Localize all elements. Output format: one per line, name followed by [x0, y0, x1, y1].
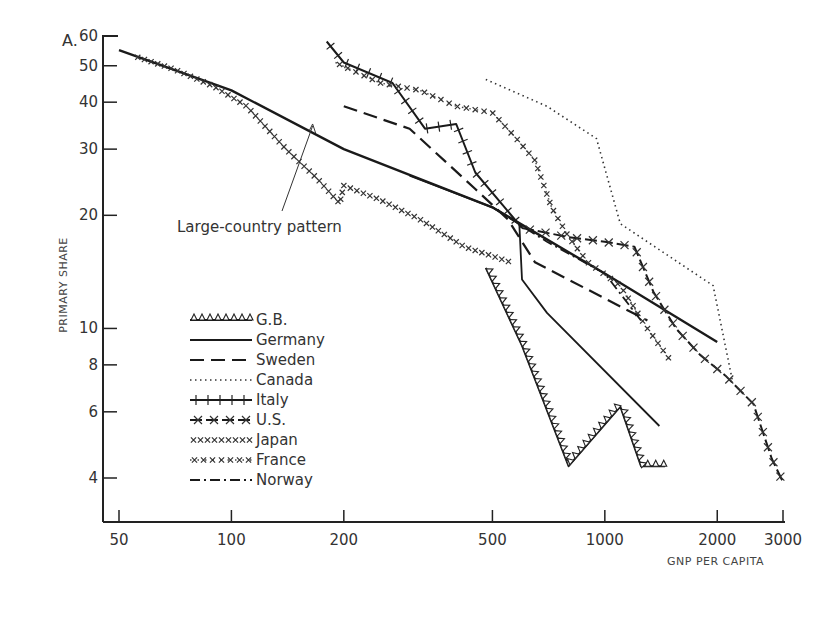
- legend-label: G.B.: [256, 311, 287, 329]
- legend: G.B.GermanySwedenCanadaItalyU.S.JapanFra…: [190, 311, 325, 489]
- series-canada: [486, 79, 733, 382]
- legend-label: Germany: [256, 331, 325, 349]
- x-tick-label: 50: [109, 531, 128, 549]
- y-tick-label: 30: [79, 140, 98, 158]
- legend-item: U.S.: [190, 411, 286, 429]
- annotation: Large-country pattern: [177, 124, 342, 236]
- x-tick-label: 1000: [586, 531, 624, 549]
- series-norway: [492, 207, 641, 320]
- axis-lines: [103, 36, 785, 522]
- x-tick-label: 100: [217, 531, 246, 549]
- series-germany: [410, 176, 660, 426]
- x-tick-label: 200: [330, 531, 359, 549]
- x-tick-label: 2000: [698, 531, 736, 549]
- legend-item: Canada: [190, 371, 313, 389]
- series-france: [336, 62, 672, 361]
- y-tick-label: 4: [88, 469, 98, 487]
- legend-label: Italy: [256, 391, 289, 409]
- annotation-arrow: [282, 126, 313, 211]
- y-tick-label: 50: [79, 57, 98, 75]
- legend-label: Sweden: [256, 351, 315, 369]
- legend-label: Canada: [256, 371, 313, 389]
- series-u-s: [522, 226, 784, 483]
- legend-label: Japan: [255, 431, 298, 449]
- axes: 46810203040506050100200500100020003000: [79, 27, 802, 549]
- annotation-label: Large-country pattern: [177, 218, 342, 236]
- legend-item: Germany: [190, 331, 325, 349]
- legend-item: Sweden: [190, 351, 315, 369]
- y-tick-label: 20: [79, 206, 98, 224]
- series-g-b: [486, 268, 667, 468]
- legend-item: Norway: [190, 471, 313, 489]
- y-tick-label: 40: [79, 93, 98, 111]
- legend-item: Italy: [190, 391, 289, 409]
- series-italy: [327, 42, 522, 229]
- panel-label: A.: [62, 31, 78, 50]
- x-axis-title: GNP PER CAPITA: [667, 555, 764, 568]
- chart: 46810203040506050100200500100020003000 G…: [0, 0, 838, 618]
- y-tick-label: 6: [88, 403, 98, 421]
- legend-item: Japan: [190, 431, 298, 449]
- x-tick-label: 3000: [764, 531, 802, 549]
- y-tick-label: 10: [79, 319, 98, 337]
- y-axis-title: PRIMARY SHARE: [57, 237, 70, 333]
- legend-label: U.S.: [256, 411, 286, 429]
- y-tick-label: 8: [88, 356, 98, 374]
- y-tick-label: 60: [79, 27, 98, 45]
- plot-area: [119, 42, 784, 483]
- legend-label: France: [256, 451, 306, 469]
- legend-label: Norway: [256, 471, 313, 489]
- legend-item: G.B.: [190, 311, 287, 329]
- legend-item: France: [190, 451, 306, 469]
- x-tick-label: 500: [478, 531, 507, 549]
